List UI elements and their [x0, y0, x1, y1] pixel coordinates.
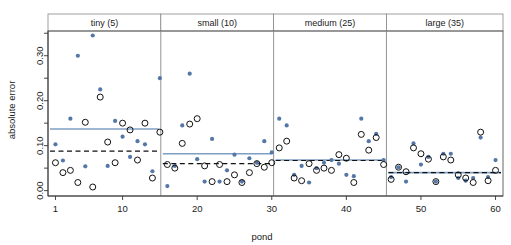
data-point-blue — [434, 180, 438, 184]
data-point-blue — [404, 180, 408, 184]
data-point-blue — [128, 155, 132, 159]
data-point-blue — [277, 117, 281, 121]
x-tick-label: 50 — [416, 203, 427, 214]
data-point-blue — [217, 180, 221, 184]
data-point-blue — [83, 164, 87, 168]
data-point-blue — [344, 173, 348, 177]
data-point-blue — [337, 162, 341, 166]
x-axis-label: pond — [251, 231, 272, 242]
data-point-blue — [285, 123, 289, 127]
data-point-blue — [493, 158, 497, 162]
data-point-blue — [232, 153, 236, 157]
data-point-blue — [479, 135, 483, 139]
data-point-blue — [135, 139, 139, 143]
data-point-blue — [262, 139, 266, 143]
data-point-blue — [180, 123, 184, 127]
data-point-blue — [61, 158, 65, 162]
data-point-blue — [225, 168, 229, 172]
scatter-plot-svg: tiny (5)small (10)medium (25)large (35) … — [0, 0, 511, 245]
data-point-blue — [195, 157, 199, 161]
data-point-blue — [359, 117, 363, 121]
y-tick-label: 0.00 — [34, 181, 45, 200]
x-tick-label: 30 — [266, 203, 277, 214]
panel-strip-label: large (35) — [425, 18, 464, 28]
y-tick-label: 0.20 — [34, 91, 45, 110]
data-point-blue — [53, 142, 57, 146]
x-tick-label: 60 — [490, 203, 501, 214]
data-point-blue — [158, 76, 162, 80]
data-point-blue — [113, 119, 117, 123]
panel-strip-label: small (10) — [197, 18, 237, 28]
data-point-blue — [210, 137, 214, 141]
data-point-blue — [143, 142, 147, 146]
panel-strip-row: tiny (5)small (10)medium (25)large (35) — [48, 14, 503, 31]
data-point-blue — [150, 169, 154, 173]
x-tick-label: 40 — [341, 203, 352, 214]
data-point-blue — [98, 87, 102, 91]
y-axis-label: absolute error — [6, 81, 17, 140]
data-point-blue — [91, 33, 95, 37]
plot-background — [0, 0, 511, 245]
panel-strip-label: tiny (5) — [91, 18, 119, 28]
data-point-blue — [300, 164, 304, 168]
x-tick-label: 1 — [53, 203, 58, 214]
data-point-blue — [247, 156, 251, 160]
data-point-blue — [396, 165, 400, 169]
chart-figure: tiny (5)small (10)medium (25)large (35) … — [0, 0, 511, 245]
data-point-blue — [449, 152, 453, 156]
y-tick-label: 0.30 — [34, 46, 45, 65]
y-tick-label: 0.10 — [34, 136, 45, 155]
data-point-blue — [352, 174, 356, 178]
x-tick-label: 10 — [117, 203, 128, 214]
data-point-blue — [307, 180, 311, 184]
panel-strip-label: medium (25) — [305, 18, 356, 28]
data-point-blue — [165, 184, 169, 188]
data-point-blue — [322, 161, 326, 165]
x-tick-label: 20 — [192, 203, 203, 214]
data-point-blue — [329, 158, 333, 162]
data-point-blue — [76, 54, 80, 58]
data-point-blue — [188, 72, 192, 76]
data-point-blue — [419, 162, 423, 166]
data-point-blue — [106, 164, 110, 168]
data-point-blue — [367, 139, 371, 143]
data-point-blue — [68, 117, 72, 121]
data-point-blue — [120, 135, 124, 139]
data-point-blue — [270, 150, 274, 154]
data-point-blue — [203, 180, 207, 184]
